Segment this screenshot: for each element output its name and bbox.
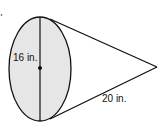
center-point: [38, 66, 42, 70]
cone-diagram: 16 in. 20 in.: [0, 0, 164, 133]
diameter-label: 16 in.: [13, 52, 37, 63]
stray-mark: [1, 14, 3, 16]
slant-height-label: 20 in.: [102, 93, 126, 104]
